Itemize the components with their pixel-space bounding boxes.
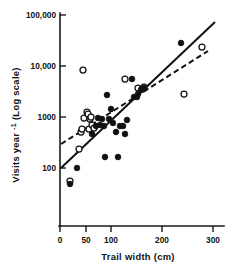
x-tick-label-50: 50 bbox=[81, 235, 91, 245]
data-point-filled bbox=[74, 165, 80, 171]
data-point-open bbox=[79, 126, 85, 132]
y-tick-label-100000: 100,000 bbox=[26, 10, 56, 20]
data-point-filled bbox=[120, 123, 126, 129]
x-tick-label-0: 0 bbox=[58, 235, 63, 245]
data-point-open bbox=[80, 67, 86, 73]
y-tick-label-10000: 10,000 bbox=[31, 61, 57, 71]
y-axis-title-exponent: -1 bbox=[10, 123, 17, 130]
x-tick-label-200: 200 bbox=[155, 235, 169, 245]
data-point-filled bbox=[124, 117, 130, 123]
data-point-filled bbox=[108, 106, 114, 112]
svg-text:Visits year -1: Visits year -1 (Log scale) bbox=[7, 67, 21, 182]
data-point-filled bbox=[113, 129, 119, 135]
data-point-filled bbox=[178, 40, 184, 46]
data-point-open bbox=[76, 146, 82, 152]
data-point-filled bbox=[101, 123, 107, 129]
data-point-open bbox=[199, 44, 205, 50]
data-point-filled bbox=[67, 181, 73, 187]
x-tick-label-300: 300 bbox=[206, 235, 220, 245]
scatter-plot: 100,000 10,000 1000 100 0 50 100 200 300… bbox=[0, 0, 237, 269]
data-point-filled bbox=[99, 116, 105, 122]
data-point-open bbox=[122, 76, 128, 82]
y-axis-title-main: Visits year bbox=[10, 133, 21, 183]
chart-figure: 100,000 10,000 1000 100 0 50 100 200 300… bbox=[0, 0, 237, 269]
data-point-filled bbox=[110, 120, 116, 126]
x-tick-label-100: 100 bbox=[104, 235, 118, 245]
data-point-filled bbox=[115, 154, 121, 160]
y-tick-label-1000: 1000 bbox=[38, 112, 57, 122]
data-point-filled bbox=[129, 76, 135, 82]
data-point-filled bbox=[141, 85, 147, 91]
y-tick-label-100: 100 bbox=[42, 163, 56, 173]
y-axis-title: Visits year -1 (Log scale) bbox=[7, 67, 21, 182]
data-point-filled bbox=[122, 131, 128, 137]
x-axis-title: Trail width (cm) bbox=[101, 251, 175, 262]
data-point-open bbox=[88, 114, 94, 120]
data-point-filled bbox=[89, 131, 95, 137]
y-axis-title-suffix: (Log scale) bbox=[10, 67, 21, 120]
data-point-open bbox=[181, 91, 187, 97]
data-point-filled bbox=[104, 92, 110, 98]
x-axis-ticks: 0 50 100 200 300 bbox=[58, 226, 221, 245]
data-point-filled bbox=[102, 154, 108, 160]
